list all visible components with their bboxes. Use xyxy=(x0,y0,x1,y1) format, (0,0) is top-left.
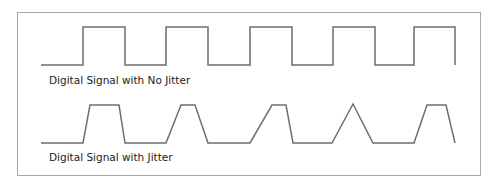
no-jitter-label: Digital Signal with No Jitter xyxy=(49,74,190,86)
jitter-label: Digital Signal with Jitter xyxy=(49,151,173,163)
jitter-waveform xyxy=(41,104,455,143)
no-jitter-waveform xyxy=(41,27,455,65)
